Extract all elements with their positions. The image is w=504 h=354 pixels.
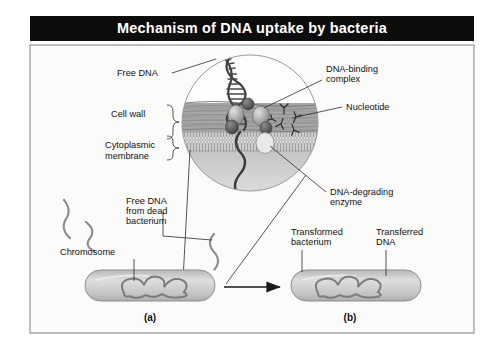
- label-chromosome: Chromosome: [60, 247, 115, 257]
- cytoplasmic-membrane-bilayer: [176, 132, 326, 151]
- label-cell-wall: Cell wall: [111, 109, 145, 119]
- figure-title: Mechanism of DNA uptake by bacteria: [117, 20, 388, 36]
- label-nucleotide: Nucleotide: [346, 102, 389, 112]
- title-bar: Mechanism of DNA uptake by bacteria: [30, 16, 474, 41]
- label-free-dna-from-dead-bacterium: Free DNA from dead bacterium: [126, 196, 170, 226]
- panel-caption-a: (a): [144, 312, 156, 323]
- label-free-dna: Free DNA: [117, 68, 159, 78]
- dna-uptake-figure: Mechanism of DNA uptake by bacteria: [0, 0, 504, 354]
- figure-canvas: Mechanism of DNA uptake by bacteria: [0, 0, 504, 354]
- dna-degrading-enzyme-shape: [256, 133, 274, 154]
- bacterium-a: [85, 270, 215, 301]
- panel-caption-b: (b): [344, 312, 357, 323]
- bacterium-b: [291, 270, 421, 301]
